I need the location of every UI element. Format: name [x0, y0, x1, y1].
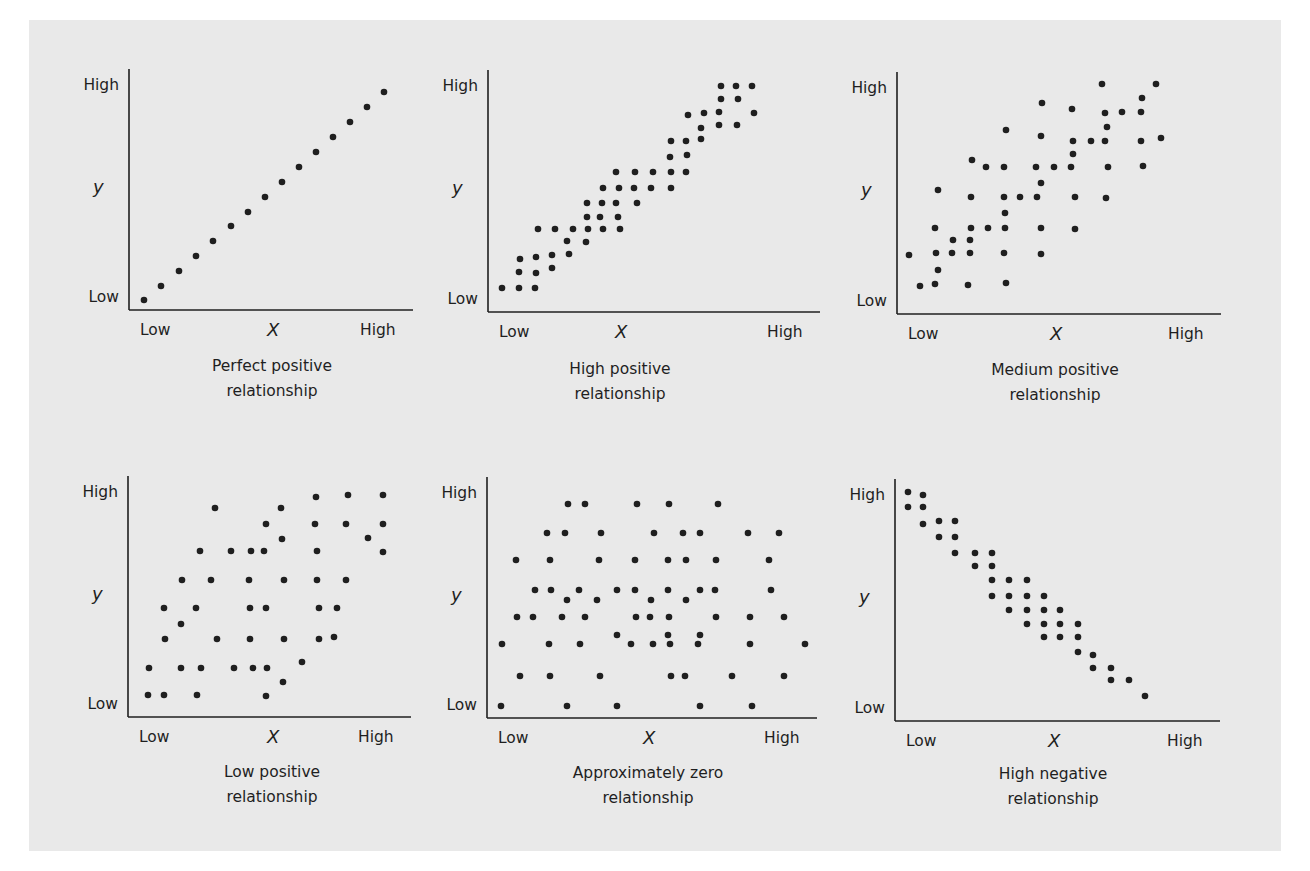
data-point: [1041, 607, 1048, 614]
data-point: [1108, 665, 1115, 672]
data-point: [1126, 677, 1133, 684]
data-point: [1024, 607, 1031, 614]
data-point: [1057, 621, 1064, 628]
data-point: [1024, 577, 1031, 584]
data-point: [1075, 649, 1082, 656]
x-high-label: High: [1167, 734, 1203, 750]
data-point: [989, 577, 996, 584]
data-point: [952, 534, 959, 541]
data-point: [1041, 621, 1048, 628]
data-point: [1041, 634, 1048, 641]
data-point: [1057, 634, 1064, 641]
data-point: [1041, 593, 1048, 600]
plot-area: [0, 0, 1310, 871]
data-point: [1142, 693, 1149, 700]
data-point: [989, 563, 996, 570]
data-point: [1090, 665, 1097, 672]
data-point: [905, 504, 912, 511]
data-point: [1024, 593, 1031, 600]
data-point: [1057, 607, 1064, 614]
y-low-label: Low: [835, 701, 885, 717]
x-axis-variable: X: [1048, 732, 1060, 750]
y-axis-variable: y: [859, 588, 870, 606]
x-low-label: Low: [906, 734, 937, 750]
data-point: [905, 489, 912, 496]
data-point: [952, 550, 959, 557]
data-point: [989, 550, 996, 557]
data-point: [936, 534, 943, 541]
data-point: [952, 518, 959, 525]
data-point: [1024, 621, 1031, 628]
panel-title-line-1: High negative: [933, 762, 1173, 787]
data-point: [1090, 652, 1097, 659]
data-points: [905, 489, 1149, 700]
data-point: [1006, 593, 1013, 600]
data-point: [920, 492, 927, 499]
y-high-label: High: [835, 488, 885, 504]
panel-title-line-2: relationship: [933, 787, 1173, 812]
data-point: [1108, 677, 1115, 684]
data-point: [1006, 607, 1013, 614]
data-point: [1075, 621, 1082, 628]
data-point: [1006, 577, 1013, 584]
data-point: [989, 593, 996, 600]
data-point: [920, 521, 927, 528]
data-point: [1075, 634, 1082, 641]
data-point: [972, 550, 979, 557]
data-point: [972, 563, 979, 570]
data-point: [920, 504, 927, 511]
data-point: [936, 518, 943, 525]
